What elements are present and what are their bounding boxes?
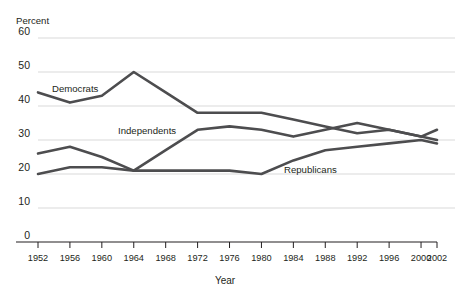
series-label-independents: Independents [118,125,176,136]
x-axis-tick-label: 2002 [427,253,447,263]
x-axis-tick-label: 1956 [60,253,80,263]
x-axis-tick-label: 1964 [124,253,144,263]
chart-canvas: 0102030405060Percent19521956196019641968… [0,0,463,300]
x-axis-tick-label: 1980 [251,253,271,263]
x-axis-tick-label: 1988 [315,253,335,263]
x-axis-title: Year [215,275,236,286]
x-axis-tick-label: 1960 [92,253,112,263]
y-axis-tick-label: 50 [18,59,30,71]
series-label-republicans: Republicans [284,164,337,175]
x-axis-tick-label: 1972 [187,253,207,263]
y-axis-tick-label: 10 [18,195,30,207]
series-line-republicans [38,140,437,174]
line-chart: 0102030405060Percent19521956196019641968… [0,0,463,300]
x-axis-tick-label: 1996 [379,253,399,263]
y-axis-tick-label: 40 [18,93,30,105]
y-axis-tick-label: 60 [18,25,30,37]
series-label-democrats: Democrats [52,83,99,94]
x-axis-tick-label: 1976 [219,253,239,263]
y-axis-tick-label: 30 [18,127,30,139]
y-axis-tick-label: 0 [24,229,30,241]
x-axis-tick-label: 1952 [28,253,48,263]
y-axis-unit-label: Percent [16,15,49,26]
x-axis-tick-label: 1992 [347,253,367,263]
y-axis-tick-label: 20 [18,161,30,173]
x-axis-tick-label: 1968 [155,253,175,263]
x-axis-tick-label: 1984 [283,253,303,263]
